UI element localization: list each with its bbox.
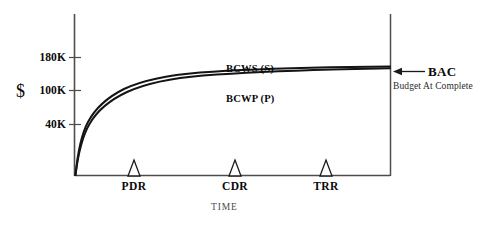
bac-arrow-head-icon <box>393 68 402 75</box>
milestone-marker-cdr <box>229 160 241 176</box>
y-tick-label-100k: 100K <box>26 85 66 97</box>
milestone-marker-trr <box>320 160 332 176</box>
milestone-marker-pdr <box>128 160 140 176</box>
bcwp-curve <box>76 68 391 175</box>
x-axis-title: TIME <box>211 203 238 213</box>
chart-canvas <box>0 0 486 227</box>
y-tick-label-180k: 180K <box>26 52 66 64</box>
milestone-label-trr: TRR <box>306 181 346 193</box>
series-label-bcwp: BCWP (P) <box>226 94 275 105</box>
y-tick-label-40k: 40K <box>26 119 66 131</box>
milestone-label-pdr: PDR <box>114 181 154 193</box>
earned-value-chart: $ 180K 100K 40K BCWS (S) BCWP (P) PDR CD… <box>0 0 486 227</box>
bcws-curve <box>76 67 391 176</box>
bac-annotation-subtitle: Budget At Complete <box>393 82 473 92</box>
milestone-label-cdr: CDR <box>215 181 255 193</box>
y-axis-unit-label: $ <box>16 82 25 100</box>
bac-annotation-title: BAC <box>428 65 456 78</box>
series-label-bcws: BCWS (S) <box>226 64 274 75</box>
